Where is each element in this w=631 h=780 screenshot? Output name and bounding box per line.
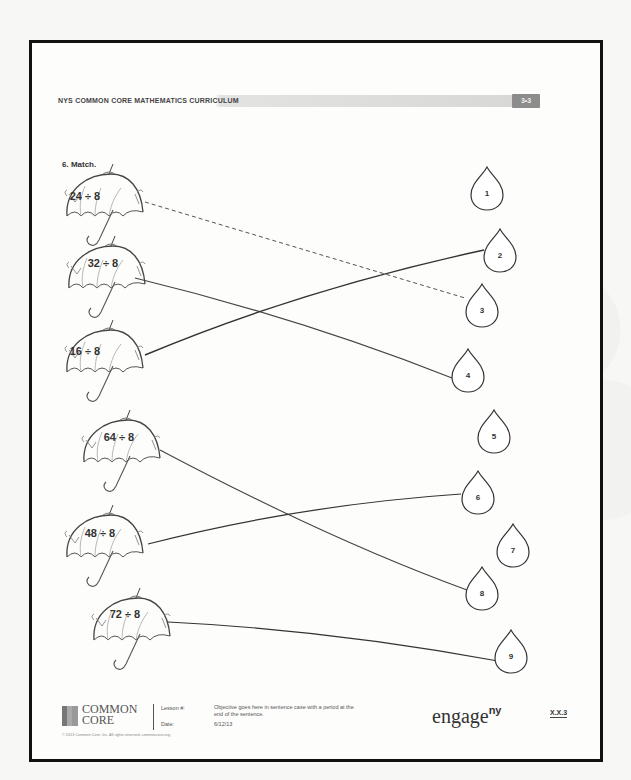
lesson-objective: Objective goes here in sentence case wit… [214, 704, 364, 718]
raindrop-number: 8 [475, 589, 489, 598]
raindrop-number: 9 [504, 652, 518, 661]
raindrop-number: 6 [471, 493, 485, 502]
common-core-logo-icon [62, 706, 78, 726]
raindrop-number: 2 [493, 251, 507, 260]
match-line [168, 622, 498, 661]
lesson-label: Lesson #: [161, 705, 185, 711]
engageny-logo: engageny [432, 704, 501, 728]
umbrella-expression: 64 ÷ 8 [89, 431, 149, 443]
raindrop-number: 4 [461, 371, 475, 380]
matching-artwork [0, 0, 631, 780]
common-core-logo-text: COMMON CORE [82, 704, 137, 726]
raindrop-number: 7 [506, 546, 520, 555]
raindrop-number: 3 [475, 306, 489, 315]
umbrella-expression: 72 ÷ 8 [95, 608, 155, 620]
logo-line-2: CORE [82, 715, 137, 726]
copyright-notice: © 2013 Common Core, Inc. All rights rese… [62, 733, 170, 737]
raindrop-number: 5 [487, 432, 501, 441]
match-line [160, 450, 467, 590]
footer-divider [153, 704, 154, 730]
match-line [148, 494, 461, 544]
match-line [135, 278, 452, 378]
page-code: X.X.3 [550, 709, 567, 718]
lesson-date: 6/12/13 [214, 721, 232, 727]
match-line-dashed [145, 202, 465, 298]
umbrella-icons [65, 164, 170, 669]
umbrella-expression: 16 ÷ 8 [55, 345, 115, 357]
brand-text: engage [432, 705, 489, 727]
date-label: Date: [161, 721, 174, 727]
umbrella-expression: 32 ÷ 8 [73, 257, 133, 269]
match-lines [135, 202, 498, 661]
raindrop-icons [452, 167, 529, 673]
umbrella-expression: 24 ÷ 8 [55, 190, 115, 202]
match-line [145, 250, 484, 355]
umbrella-expression: 48 ÷ 8 [70, 527, 130, 539]
raindrop-number: 1 [480, 189, 494, 198]
brand-superscript: ny [489, 704, 502, 716]
